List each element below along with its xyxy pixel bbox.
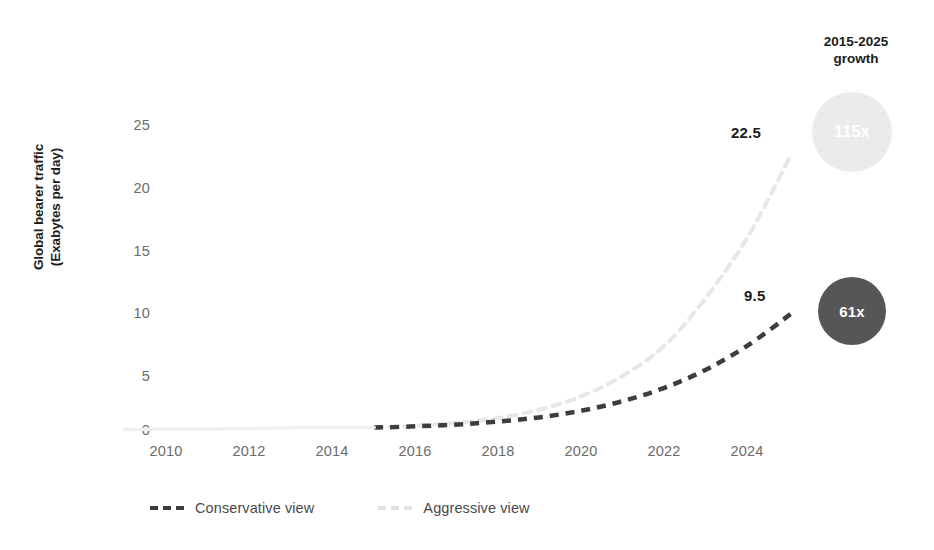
legend-dash-conservative-icon	[150, 506, 184, 510]
legend-item-conservative[interactable]: Conservative view	[150, 500, 314, 516]
legend-dash-aggressive-icon	[378, 506, 412, 510]
series-line-aggressive	[374, 156, 790, 428]
legend-label-aggressive: Aggressive view	[423, 500, 529, 516]
growth-bubble-aggressive-label: 115x	[834, 123, 870, 141]
growth-panel-title: 2015-2025 growth	[790, 33, 922, 67]
chart-legend: Conservative view Aggressive view	[150, 500, 530, 516]
series-line-conservative	[374, 314, 790, 427]
growth-panel-title-line-1: 2015-2025	[790, 33, 922, 50]
value-label-aggressive-end: 22.5	[731, 124, 761, 141]
growth-bubble-aggressive: 115x	[812, 92, 892, 172]
plot-area	[0, 0, 934, 550]
value-label-conservative-end: 9.5	[744, 287, 765, 304]
series-line-history	[124, 428, 374, 430]
legend-label-conservative: Conservative view	[195, 500, 314, 516]
growth-bubble-conservative: 61x	[818, 277, 886, 345]
growth-panel-title-line-2: growth	[790, 50, 922, 67]
chart-container: Global bearer traffic (Exabytes per day)…	[0, 0, 934, 550]
legend-item-aggressive[interactable]: Aggressive view	[378, 500, 529, 516]
growth-bubble-conservative-label: 61x	[839, 303, 865, 320]
